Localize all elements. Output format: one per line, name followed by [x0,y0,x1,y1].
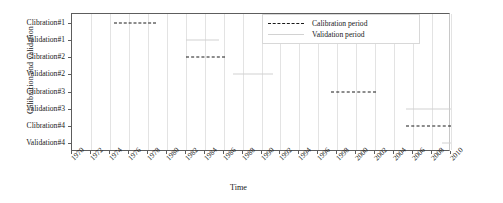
data-segment-validation [186,39,219,40]
chart-figure: Calibration and validation Clibration#1V… [0,0,503,203]
y-axis-tick-label: Clibration#3 [27,86,65,95]
y-axis-tick-mark [68,57,72,58]
y-axis-tick-label: Validation#1 [26,34,65,43]
y-axis-tick-mark [68,109,72,110]
gridline-vertical [451,14,452,150]
gridline-vertical [129,14,130,150]
y-axis-tick-label: Clibration#2 [27,52,65,61]
y-axis-tick-mark [68,40,72,41]
legend-row: Calibration period [268,18,414,29]
y-axis-tick-mark [68,74,72,75]
x-axis-title: Time [230,183,247,192]
y-axis-tick-mark [68,126,72,127]
legend-swatch-icon [268,34,304,35]
legend-row: Validation period [268,29,414,40]
data-segment-calibration [186,57,226,58]
data-segment-calibration [114,22,157,23]
gridline-vertical [148,14,149,150]
chart-legend: Calibration periodValidation period [262,14,420,44]
legend-label: Calibration period [312,19,367,28]
gridline-vertical [432,14,433,150]
y-axis-tick-mark [68,23,72,24]
data-segment-validation [442,143,451,144]
gridline-vertical [110,14,111,150]
y-axis-tick-labels: Clibration#1Validation#1Clibration#2Vali… [0,13,71,151]
gridline-vertical [91,14,92,150]
x-axis-tick-labels: 1970197219741976197819801982198419861988… [71,151,450,191]
y-axis-tick-label: Clibration#4 [27,121,65,130]
legend-swatch-icon [268,23,304,24]
gridline-vertical [186,14,187,150]
data-segment-calibration [406,126,451,127]
y-axis-tick-label: Validation#3 [26,103,65,112]
gridline-vertical [167,14,168,150]
legend-label: Validation period [312,30,365,39]
data-segment-validation [233,74,273,75]
data-segment-validation [406,108,451,109]
y-axis-tick-label: Validation#2 [26,69,65,78]
gridline-vertical [224,14,225,150]
gridline-vertical [243,14,244,150]
y-axis-tick-label: Validation#4 [26,138,65,147]
y-axis-tick-label: Clibration#1 [27,17,65,26]
data-segment-calibration [331,91,376,92]
gridline-vertical [205,14,206,150]
y-axis-tick-mark [68,143,72,144]
y-axis-tick-mark [68,92,72,93]
